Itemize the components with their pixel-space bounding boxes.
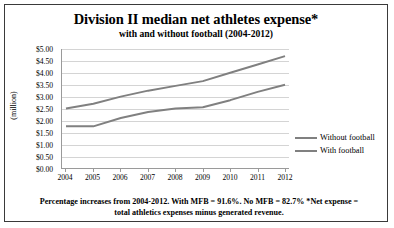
x-tick-mark [230, 169, 231, 172]
x-tick-mark [65, 169, 66, 172]
y-tick-label: $2.50 [36, 105, 53, 114]
y-axis-label: (million) [9, 76, 18, 136]
y-tick-label: $0.50 [36, 153, 53, 162]
x-tick-mark [120, 169, 121, 172]
x-tick-mark [203, 169, 204, 172]
series-lines [62, 49, 289, 168]
x-tick-label: 2007 [140, 173, 155, 182]
legend-swatch [295, 137, 317, 139]
chart-footnote: Percentage increases from 2004-2012. Wit… [31, 197, 367, 218]
x-tick-label: 2010 [222, 173, 237, 182]
y-tick-label: $3.00 [36, 93, 53, 102]
x-tick-label: 2008 [167, 173, 182, 182]
chart-subtitle: with and without football (2004-2012) [5, 28, 387, 39]
chart-legend: Without footballWith football [295, 133, 375, 159]
chart-card: Division II median net athletes expense*… [4, 4, 388, 222]
y-tick-label: $5.00 [36, 45, 53, 54]
series-line [66, 56, 285, 108]
plot-frame [61, 49, 289, 169]
y-tick-label: $3.50 [36, 81, 53, 90]
x-tick-label: 2006 [112, 173, 127, 182]
x-tick-label: 2012 [277, 173, 292, 182]
x-tick-label: 2005 [85, 173, 100, 182]
series-line [66, 85, 285, 127]
y-tick-label: $1.00 [36, 141, 53, 150]
legend-label: With football [320, 146, 364, 155]
legend-label: Without football [320, 133, 375, 142]
y-tick-label: $0.00 [36, 165, 53, 174]
x-tick-mark [285, 169, 286, 172]
x-tick-mark [175, 169, 176, 172]
legend-item[interactable]: With football [295, 146, 375, 155]
x-tick-label: 2011 [250, 173, 265, 182]
legend-item[interactable]: Without football [295, 133, 375, 142]
x-tick-mark [93, 169, 94, 172]
x-tick-mark [148, 169, 149, 172]
plot-area: $5.00$4.50$4.00$3.50$3.00$2.50$2.00$1.50… [57, 49, 289, 175]
y-tick-label: $1.50 [36, 129, 53, 138]
y-tick-label: $4.50 [36, 57, 53, 66]
x-tick-label: 2004 [57, 173, 72, 182]
y-tick-label: $4.00 [36, 69, 53, 78]
chart-title: Division II median net athletes expense* [5, 11, 387, 28]
x-tick-label: 2009 [195, 173, 210, 182]
legend-swatch [295, 150, 317, 152]
y-tick-label: $2.00 [36, 117, 53, 126]
x-tick-mark [258, 169, 259, 172]
